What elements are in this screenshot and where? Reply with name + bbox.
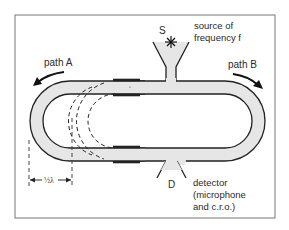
figure-frame	[15, 15, 275, 218]
source-desc-line1: source of	[194, 20, 233, 31]
detector-desc-line2: (microphone	[193, 189, 246, 200]
half-wavelength-label: ½λ	[44, 176, 54, 185]
source-desc-line2: frequency f	[194, 32, 241, 43]
fixed-loop-path-b	[140, 81, 265, 161]
source-letter: S	[159, 25, 166, 36]
path-b-label: path B	[228, 59, 257, 70]
detector-desc-line3: and c.r.o.)	[193, 201, 235, 212]
detector-desc-line1: detector	[193, 177, 227, 188]
interference-tube-diagram: ½λ path A path B S source of frequency f…	[0, 0, 289, 230]
detector-letter: D	[168, 179, 175, 190]
detector-funnel	[157, 159, 193, 178]
path-a-label: path A	[44, 57, 73, 68]
source-funnel	[153, 42, 189, 84]
